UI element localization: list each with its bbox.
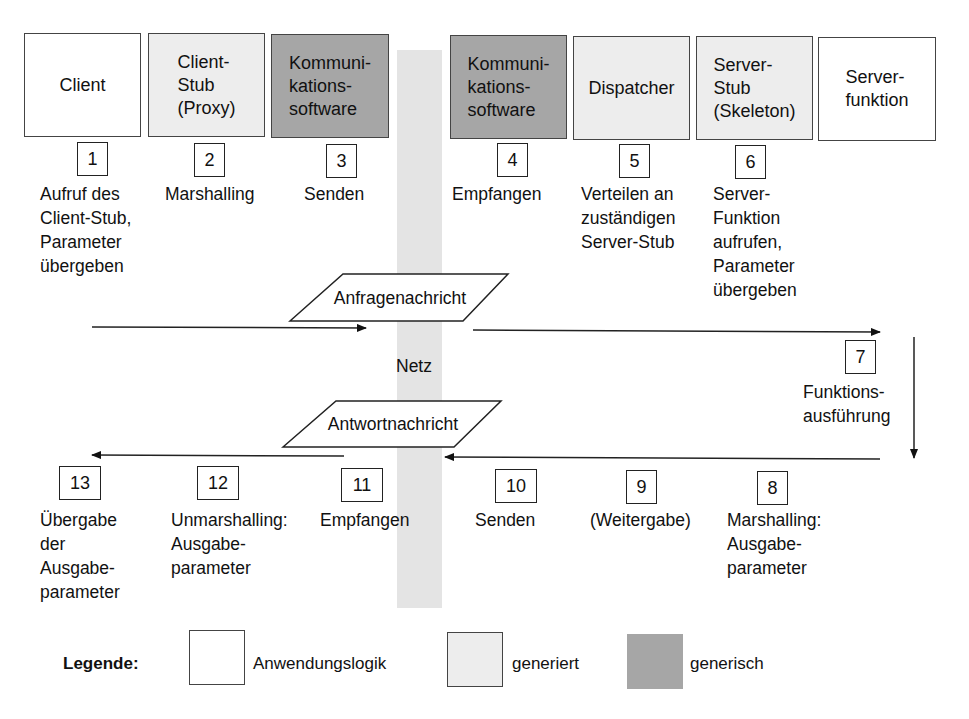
legend-swatch-application	[189, 630, 245, 685]
flow-arrows	[0, 0, 969, 719]
legend-label-application: Anwendungslogik	[253, 654, 386, 674]
legend-swatch-generic	[627, 634, 683, 689]
legend-label-generated: generiert	[512, 654, 579, 674]
legend-swatch-generated	[447, 632, 503, 687]
legend-label-generic: generisch	[690, 654, 764, 674]
request-message-label: Anfragenachricht	[325, 288, 475, 309]
response-message-label: Antwortnachricht	[318, 414, 468, 435]
legend-title: Legende:	[63, 654, 139, 674]
